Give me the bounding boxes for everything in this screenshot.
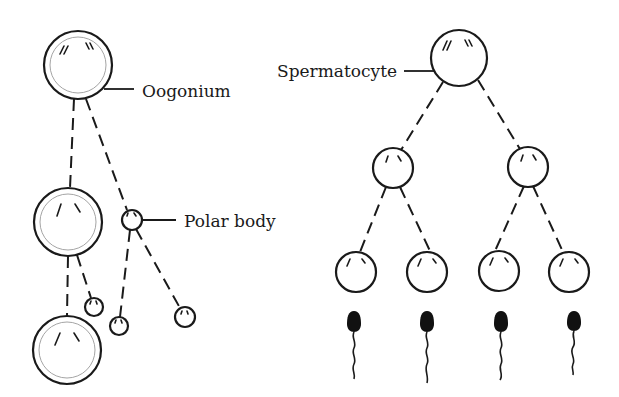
secondary-spermatocyte-right-cell (508, 147, 548, 187)
sperm-icon (567, 311, 581, 375)
lineage-line (120, 230, 130, 317)
sperm-icon (494, 311, 508, 380)
sperm-icon (347, 311, 361, 379)
lineage-line (401, 82, 443, 150)
gametogenesis-diagram: Oogonium Polar body (0, 0, 619, 397)
polar-body-division-right-cell (175, 307, 195, 327)
lineage-line (77, 255, 91, 298)
lineage-line (400, 187, 430, 251)
ovum-cell (33, 316, 101, 384)
lineage-line (70, 99, 74, 188)
spermatid-cell (549, 252, 589, 292)
spermatocyte-cell (431, 30, 487, 86)
lineage-line (67, 256, 68, 316)
lineage-line (495, 186, 524, 251)
polar-body-label: Polar body (184, 211, 276, 231)
spermatid-cell (479, 251, 519, 291)
first-polar-body-cell (122, 210, 142, 230)
oogonium-cell (44, 31, 112, 99)
spermatid-cell (336, 252, 376, 292)
lineage-line (86, 99, 127, 210)
second-polar-body-cell (85, 298, 103, 316)
lineage-line (360, 187, 386, 252)
oogonium-label: Oogonium (142, 81, 231, 101)
sperm-icon (420, 311, 434, 383)
spermatid-cell (407, 252, 447, 292)
secondary-oocyte-cell (34, 188, 102, 256)
lineage-line (533, 186, 563, 252)
spermatogenesis-lineage: Spermatocyte (277, 30, 589, 383)
lineage-line (478, 80, 520, 149)
spermatocyte-label: Spermatocyte (277, 61, 397, 81)
lineage-line (136, 229, 180, 308)
secondary-spermatocyte-left-cell (373, 148, 413, 188)
polar-body-division-left-cell (110, 317, 128, 335)
oogenesis-lineage: Oogonium Polar body (33, 31, 276, 384)
